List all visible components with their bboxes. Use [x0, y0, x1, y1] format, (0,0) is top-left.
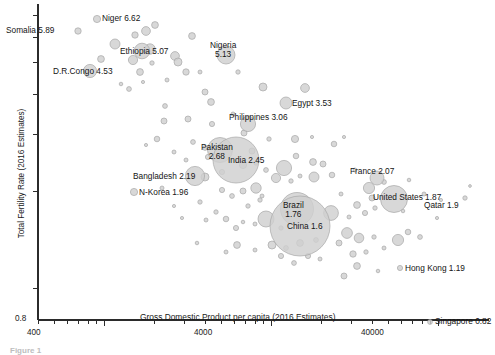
data-bubble[interactable] — [347, 215, 351, 219]
data-bubble[interactable] — [198, 70, 202, 74]
data-bubble[interactable] — [331, 141, 337, 147]
data-bubble[interactable] — [204, 218, 208, 222]
data-bubble[interactable] — [405, 229, 411, 235]
data-bubble[interactable] — [141, 80, 144, 83]
data-bubble[interactable] — [336, 240, 342, 246]
data-bubble[interactable] — [418, 235, 423, 240]
data-bubble[interactable] — [258, 198, 262, 202]
data-bubble[interactable] — [301, 84, 310, 93]
data-bubble[interactable] — [223, 216, 229, 222]
data-bubble[interactable] — [310, 135, 313, 138]
data-bubble[interactable] — [310, 159, 317, 166]
data-bubble[interactable] — [318, 257, 322, 261]
data-bubble[interactable] — [276, 160, 291, 175]
data-bubble[interactable] — [150, 61, 154, 65]
data-bubble[interactable] — [354, 263, 361, 270]
data-bubble[interactable] — [364, 250, 368, 254]
data-bubble[interactable] — [392, 234, 403, 245]
data-bubble[interactable] — [251, 183, 261, 193]
data-bubble[interactable] — [354, 202, 361, 209]
data-bubble[interactable] — [293, 153, 299, 159]
data-bubble[interactable] — [376, 269, 380, 273]
data-bubble[interactable] — [342, 135, 345, 138]
data-bubble[interactable] — [253, 222, 257, 226]
data-bubble[interactable] — [189, 33, 196, 40]
data-bubble[interactable] — [259, 83, 267, 91]
data-bubble[interactable] — [174, 58, 182, 66]
data-bubble[interactable] — [165, 78, 169, 82]
data-bubble[interactable] — [98, 56, 105, 63]
data-bubble[interactable] — [329, 172, 335, 178]
data-bubble[interactable] — [320, 161, 326, 167]
data-bubble[interactable] — [180, 216, 183, 219]
data-bubble[interactable] — [291, 135, 298, 142]
data-bubble[interactable] — [142, 27, 151, 36]
data-bubble-niger[interactable] — [93, 15, 100, 22]
data-bubble[interactable] — [309, 172, 319, 182]
data-bubble[interactable] — [382, 246, 386, 250]
data-bubble[interactable] — [219, 187, 224, 192]
data-bubble[interactable] — [354, 233, 364, 243]
data-bubble[interactable] — [191, 140, 196, 145]
data-bubble[interactable] — [278, 253, 283, 258]
data-bubble[interactable] — [253, 248, 257, 252]
data-bubble[interactable] — [152, 22, 159, 29]
point-label-line: China 1.6 — [287, 222, 323, 231]
data-bubble[interactable] — [110, 39, 120, 49]
data-bubble[interactable] — [154, 136, 160, 142]
data-bubble[interactable] — [246, 204, 250, 208]
data-bubble[interactable] — [339, 192, 343, 196]
data-bubble[interactable] — [236, 70, 240, 74]
data-bubble[interactable] — [183, 69, 189, 75]
data-bubble[interactable] — [195, 241, 199, 245]
data-bubble[interactable] — [342, 228, 353, 239]
data-bubble[interactable] — [373, 206, 377, 210]
data-bubble[interactable] — [372, 235, 376, 239]
data-bubble[interactable] — [264, 168, 269, 173]
data-bubble-qatar[interactable] — [463, 196, 467, 200]
data-bubble-n-korea[interactable] — [130, 188, 137, 195]
data-bubble[interactable] — [172, 150, 176, 154]
data-bubble[interactable] — [132, 32, 138, 38]
data-bubble[interactable] — [198, 200, 202, 204]
data-bubble[interactable] — [127, 87, 132, 92]
data-bubble-somalia[interactable] — [75, 28, 81, 34]
data-bubble[interactable] — [407, 178, 411, 182]
data-bubble[interactable] — [185, 116, 191, 122]
data-bubble[interactable] — [119, 82, 123, 86]
data-bubble[interactable] — [341, 273, 347, 279]
data-bubble-hong-kong[interactable] — [397, 265, 402, 270]
data-bubble[interactable] — [137, 69, 144, 76]
y-tick-label: 0.8 — [15, 314, 26, 323]
data-bubble[interactable] — [144, 143, 147, 146]
data-bubble[interactable] — [362, 210, 367, 215]
data-bubble[interactable] — [267, 137, 271, 141]
data-bubble[interactable] — [240, 188, 246, 194]
data-bubble[interactable] — [172, 204, 175, 207]
data-bubble[interactable] — [161, 118, 167, 124]
data-bubble[interactable] — [233, 225, 238, 230]
data-bubble[interactable] — [350, 251, 356, 257]
data-bubble[interactable] — [128, 55, 137, 64]
data-bubble[interactable] — [260, 194, 264, 198]
data-bubble[interactable] — [209, 121, 214, 126]
data-bubble[interactable] — [292, 261, 297, 266]
data-bubble[interactable] — [163, 104, 168, 109]
data-bubble[interactable] — [241, 220, 245, 224]
point-label-line: 5.13 — [210, 50, 236, 59]
data-bubble[interactable] — [230, 194, 235, 199]
data-bubble[interactable] — [202, 89, 208, 95]
data-bubble[interactable] — [271, 173, 280, 182]
data-bubble[interactable] — [184, 158, 188, 162]
data-bubble-egypt[interactable] — [280, 97, 292, 109]
data-bubble-singapore[interactable] — [428, 320, 433, 325]
data-bubble[interactable] — [224, 250, 228, 254]
data-bubble[interactable] — [469, 185, 472, 188]
data-bubble[interactable] — [234, 242, 241, 249]
data-bubble[interactable] — [298, 174, 302, 178]
data-bubble[interactable] — [289, 179, 293, 183]
data-bubble[interactable] — [435, 216, 438, 219]
data-bubble[interactable] — [208, 99, 215, 106]
data-bubble[interactable] — [214, 210, 218, 214]
